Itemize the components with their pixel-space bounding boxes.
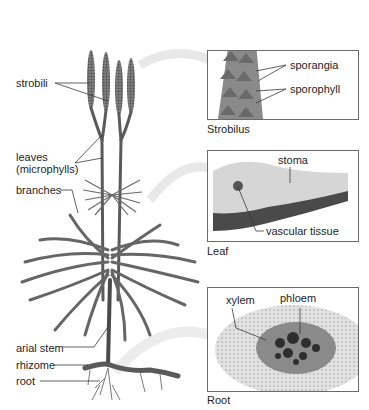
caption-strobilus: Strobilus — [207, 123, 250, 135]
label-xylem: xylem — [226, 294, 255, 306]
strobili-cones — [87, 50, 135, 116]
caption-leaf: Leaf — [207, 245, 228, 257]
label-vascular-tissue: vascular tissue — [266, 225, 339, 237]
label-rhizome: rhizome — [16, 359, 55, 371]
panel-leaf: stoma vascular tissue — [207, 150, 359, 242]
diagram-canvas: strobili leaves (microphylls) branches a… — [0, 0, 369, 410]
label-branches: branches — [16, 184, 61, 196]
label-strobili: strobili — [16, 77, 48, 89]
callout-arrow-leaf — [150, 167, 210, 200]
callout-arrow-root — [115, 332, 210, 372]
label-leaves: leaves — [16, 151, 48, 163]
panel-strobilus: sporangia sporophyll — [207, 50, 359, 120]
label-sporophyll: sporophyll — [290, 83, 340, 95]
callout-arrow-strobilus — [140, 54, 210, 65]
roots — [88, 368, 162, 400]
label-leaves-microphylls: (microphylls) — [16, 163, 78, 175]
label-sporangia: sporangia — [290, 59, 338, 71]
label-root: root — [16, 375, 35, 387]
label-phloem: phloem — [280, 292, 316, 304]
label-arial-stem: arial stem — [16, 342, 64, 354]
panel-root: xylem phloem — [207, 287, 359, 392]
caption-root: Root — [207, 394, 230, 406]
label-stoma: stoma — [278, 154, 308, 166]
